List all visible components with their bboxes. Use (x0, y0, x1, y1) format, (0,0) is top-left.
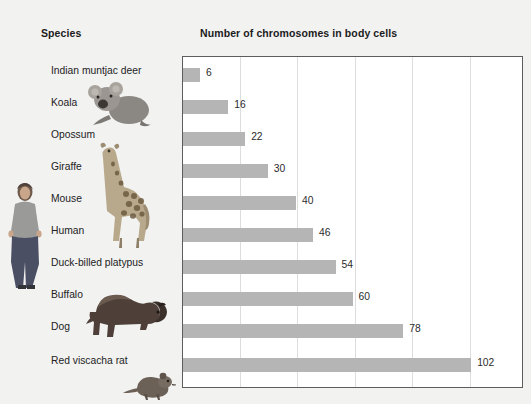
species-label: Mouse (51, 193, 82, 205)
bar-row: 16 (183, 93, 522, 123)
bar (183, 164, 268, 178)
species-label: Red viscacha rat (51, 355, 128, 367)
species-column-header: Species (41, 27, 81, 39)
bar-value-label: 16 (234, 99, 245, 110)
bar-value-label: 60 (359, 291, 370, 302)
species-label: Buffalo (51, 289, 83, 301)
bar-value-label: 102 (477, 357, 494, 368)
bar-row: 78 (183, 317, 522, 347)
bar (183, 324, 403, 338)
plot-inner: 6 16 22 30 40 46 (183, 57, 522, 387)
species-label: Duck-billed platypus (51, 257, 143, 269)
bar (183, 68, 200, 82)
species-label: Koala (51, 97, 77, 109)
bar-value-label: 40 (302, 195, 313, 206)
bar (183, 358, 471, 372)
bar (183, 196, 296, 210)
bar (183, 228, 313, 242)
bar (183, 292, 353, 306)
bar-row: 54 (183, 253, 522, 283)
bar-value-label: 46 (319, 227, 330, 238)
bar (183, 260, 336, 274)
bar-value-label: 30 (274, 163, 285, 174)
bar-value-label: 22 (251, 131, 262, 142)
species-label: Human (51, 225, 84, 237)
bar-row: 60 (183, 285, 522, 315)
bar (183, 100, 228, 114)
chromosome-chart-figure: Species Number of chromosomes in body ce… (0, 0, 531, 404)
bar-value-label: 54 (342, 259, 353, 270)
bar-row: 30 (183, 157, 522, 187)
bar-chart-plot-area: 6 16 22 30 40 46 (182, 56, 523, 388)
bar-value-label: 78 (409, 323, 420, 334)
bar-row: 6 (183, 61, 522, 91)
species-label: Giraffe (51, 161, 82, 173)
species-label-column: Indian muntjac deer Koala Opossum Giraff… (0, 55, 182, 395)
bar-row: 46 (183, 221, 522, 251)
bar-row: 40 (183, 189, 522, 219)
species-label: Dog (51, 321, 70, 333)
bar-row: 102 (183, 351, 522, 381)
bar-value-label: 6 (206, 67, 212, 78)
bar (183, 132, 245, 146)
species-label: Opossum (51, 129, 95, 141)
bar-row: 22 (183, 125, 522, 155)
species-label: Indian muntjac deer (51, 65, 141, 77)
chart-title: Number of chromosomes in body cells (200, 27, 397, 39)
